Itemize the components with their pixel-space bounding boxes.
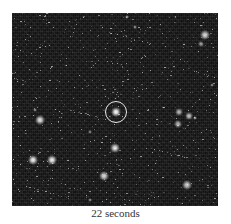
noise-speck — [122, 173, 123, 174]
noise-speck — [53, 193, 54, 194]
noise-speck — [17, 100, 18, 101]
noise-speck — [61, 196, 62, 197]
noise-speck — [119, 56, 121, 57]
noise-speck — [122, 67, 123, 68]
noise-speck — [105, 175, 106, 176]
noise-speck — [39, 152, 41, 153]
noise-speck — [74, 112, 75, 113]
noise-speck — [127, 79, 129, 80]
noise-speck — [199, 158, 200, 159]
noise-speck — [144, 33, 145, 34]
noise-speck — [102, 174, 103, 175]
noise-speck — [213, 137, 214, 138]
noise-speck — [97, 36, 98, 37]
noise-speck — [36, 72, 38, 73]
noise-speck — [88, 154, 89, 155]
noise-speck — [217, 55, 218, 56]
noise-speck — [178, 172, 179, 173]
noise-speck — [78, 166, 79, 167]
noise-speck — [172, 146, 173, 147]
noise-speck — [117, 63, 118, 64]
noise-speck — [190, 92, 191, 93]
noise-speck — [149, 20, 150, 21]
noise-speck — [206, 129, 207, 130]
noise-speck — [38, 151, 39, 152]
noise-speck — [115, 179, 116, 180]
noise-speck — [105, 136, 107, 137]
noise-speck — [115, 197, 116, 198]
noise-speck — [95, 63, 96, 64]
noise-speck — [212, 76, 213, 77]
noise-speck — [92, 126, 93, 127]
noise-speck — [13, 121, 15, 122]
noise-speck — [113, 57, 114, 58]
noise-speck — [68, 192, 70, 193]
noise-speck — [40, 70, 41, 71]
noise-speck — [40, 148, 42, 149]
noise-speck — [213, 202, 214, 203]
noise-speck — [202, 90, 203, 91]
noise-speck — [207, 71, 208, 72]
noise-speck — [107, 43, 108, 44]
noise-speck — [193, 37, 194, 38]
noise-speck — [167, 79, 168, 80]
noise-speck — [198, 51, 199, 52]
noise-speck — [139, 32, 140, 33]
star — [185, 112, 193, 120]
noise-speck — [196, 122, 197, 123]
noise-speck — [189, 168, 190, 169]
noise-speck — [134, 174, 135, 175]
noise-speck — [96, 188, 97, 189]
noise-speck — [173, 66, 175, 67]
noise-speck — [19, 191, 20, 192]
noise-speck — [126, 122, 127, 123]
noise-speck — [41, 53, 42, 54]
noise-speck — [176, 118, 177, 119]
noise-speck — [147, 181, 148, 182]
noise-speck — [100, 148, 101, 149]
noise-speck — [155, 163, 156, 164]
noise-speck — [44, 41, 45, 42]
noise-speck — [98, 119, 99, 120]
noise-speck — [145, 56, 146, 57]
noise-speck — [34, 108, 35, 109]
noise-speck — [94, 129, 95, 130]
noise-speck — [130, 158, 131, 159]
noise-speck — [60, 73, 61, 74]
noise-speck — [147, 27, 148, 28]
noise-speck — [72, 52, 73, 53]
noise-speck — [185, 197, 186, 198]
noise-speck — [213, 13, 214, 14]
noise-speck — [207, 76, 208, 77]
noise-speck — [153, 85, 154, 86]
noise-speck — [169, 31, 170, 32]
noise-speck — [68, 125, 69, 126]
noise-speck — [207, 185, 209, 186]
noise-speck — [216, 95, 217, 96]
noise-speck — [137, 87, 138, 88]
noise-speck — [51, 67, 52, 68]
noise-speck — [36, 176, 38, 177]
noise-speck — [209, 112, 210, 113]
noise-speck — [89, 115, 90, 116]
noise-speck — [193, 130, 194, 131]
noise-speck — [14, 18, 15, 19]
noise-speck — [152, 169, 153, 170]
noise-speck — [15, 27, 17, 28]
noise-speck — [123, 17, 124, 18]
noise-speck — [117, 59, 118, 60]
noise-speck — [157, 15, 158, 16]
noise-speck — [144, 205, 145, 206]
noise-speck — [152, 152, 153, 153]
noise-speck — [44, 16, 46, 17]
noise-speck — [177, 198, 178, 199]
noise-speck — [171, 51, 173, 52]
noise-speck — [80, 113, 81, 114]
noise-speck — [102, 27, 103, 28]
noise-speck — [15, 72, 16, 73]
noise-speck — [150, 70, 151, 71]
noise-speck — [124, 204, 126, 205]
noise-speck — [201, 132, 202, 133]
noise-speck — [84, 120, 85, 121]
noise-speck — [17, 79, 18, 80]
